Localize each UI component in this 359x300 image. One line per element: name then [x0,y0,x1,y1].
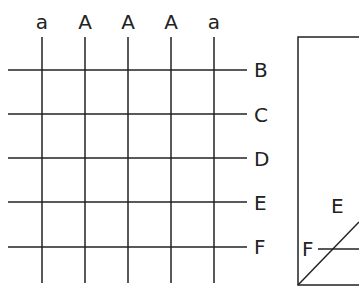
vertical-lines [42,37,214,283]
column-label-2: A [78,10,92,34]
column-label-3: A [121,10,135,34]
row-label-D: D [254,147,269,171]
inset-label-F: F [302,237,314,261]
row-label-B: B [254,58,268,82]
column-label-4: A [164,10,178,34]
row-label-F: F [254,235,266,259]
grid-diagram: a A A A a B C D E F E F [0,0,359,300]
inset-label-E: E [331,194,344,218]
row-label-C: C [254,103,268,127]
column-label-5: a [208,10,220,34]
column-label-1: a [36,10,48,34]
row-label-E: E [254,191,267,215]
